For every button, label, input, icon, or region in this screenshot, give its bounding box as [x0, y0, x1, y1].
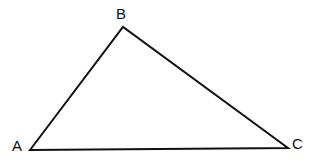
triangle-outline — [30, 27, 288, 150]
triangle-diagram — [0, 0, 315, 162]
vertex-label-b: B — [116, 6, 126, 21]
vertex-label-c: C — [292, 136, 303, 151]
triangle-figure-canvas: A B C — [0, 0, 315, 162]
vertex-label-a: A — [12, 138, 22, 153]
